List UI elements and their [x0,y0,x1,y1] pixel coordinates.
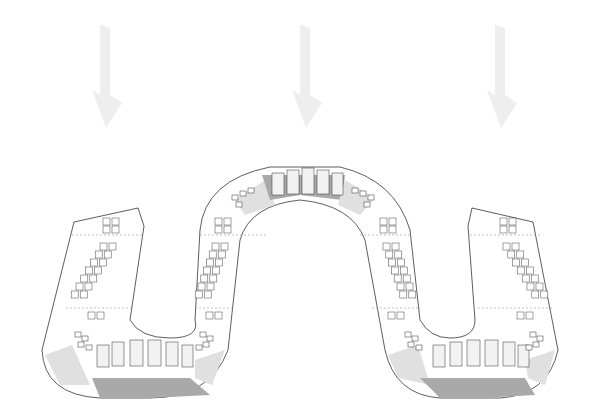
kiosk [389,226,396,233]
kiosk [206,259,213,266]
market-zone [420,378,535,398]
kiosk [403,275,410,282]
kiosk [210,275,217,282]
kiosk [109,243,116,250]
kiosk [508,251,515,258]
kiosk [522,259,529,266]
kiosk [212,243,219,250]
kiosk [526,312,533,319]
kiosk [99,259,106,266]
kiosk [397,283,404,290]
kiosk [400,291,407,298]
kiosk [195,291,202,298]
kiosk [221,243,228,250]
kiosk [388,312,395,319]
kiosk [400,267,407,274]
kiosk [522,275,529,282]
kiosk [380,226,387,233]
serpentine-diagram [0,0,608,419]
kiosk [392,243,399,250]
kiosk [509,218,516,225]
kiosk [513,259,520,266]
kiosk [85,283,92,290]
kiosk [112,218,119,225]
kiosk [218,251,225,258]
kiosk [215,226,222,233]
kiosk [380,218,387,225]
kiosk [204,267,211,274]
kiosk [209,251,216,258]
kiosk [103,226,110,233]
kiosk [397,312,404,319]
kiosk [215,259,222,266]
kiosk [406,283,413,290]
kiosk [532,291,539,298]
down-arrow-icon [92,25,122,128]
kiosk [224,218,231,225]
kiosk [541,291,548,298]
kiosk [206,312,213,319]
kiosk [71,291,78,298]
kiosk [90,259,97,266]
kiosk [224,226,231,233]
kiosk [88,312,95,319]
kiosk [97,312,104,319]
kiosk [503,243,510,250]
kiosk [81,275,88,282]
kiosk [95,251,102,258]
kiosk [104,251,111,258]
kiosk [383,243,390,250]
kiosk [204,291,211,298]
kiosk [103,218,110,225]
kiosk [213,267,220,274]
entry-arrow-right [487,25,517,128]
kiosk [512,243,519,250]
kiosk [517,267,524,274]
kiosk [394,275,401,282]
kiosk [215,312,222,319]
down-arrow-icon [487,25,517,128]
kiosk [527,283,534,290]
kiosk [398,259,405,266]
kiosk [207,283,214,290]
kiosk [386,251,393,258]
kiosk [215,218,222,225]
entry-arrow-left [92,25,122,128]
kiosk [80,291,87,298]
kiosk [198,283,205,290]
entry-arrow-center [292,25,322,128]
kiosk [500,226,507,233]
kiosk [86,267,93,274]
kiosk [201,275,208,282]
down-arrow-icon [292,25,322,128]
kiosk [112,226,119,233]
kiosk [76,283,83,290]
kiosk [517,251,524,258]
kiosk [90,275,97,282]
kiosk [526,267,533,274]
kiosk [95,267,102,274]
kiosk [389,259,396,266]
market-zone [92,378,210,398]
kiosk [409,291,416,298]
kiosk [100,243,107,250]
kiosk [389,218,396,225]
kiosk [536,283,543,290]
kiosk [500,218,507,225]
kiosk [391,267,398,274]
kiosk [531,275,538,282]
kiosk [395,251,402,258]
kiosk [517,312,524,319]
kiosk [509,226,516,233]
